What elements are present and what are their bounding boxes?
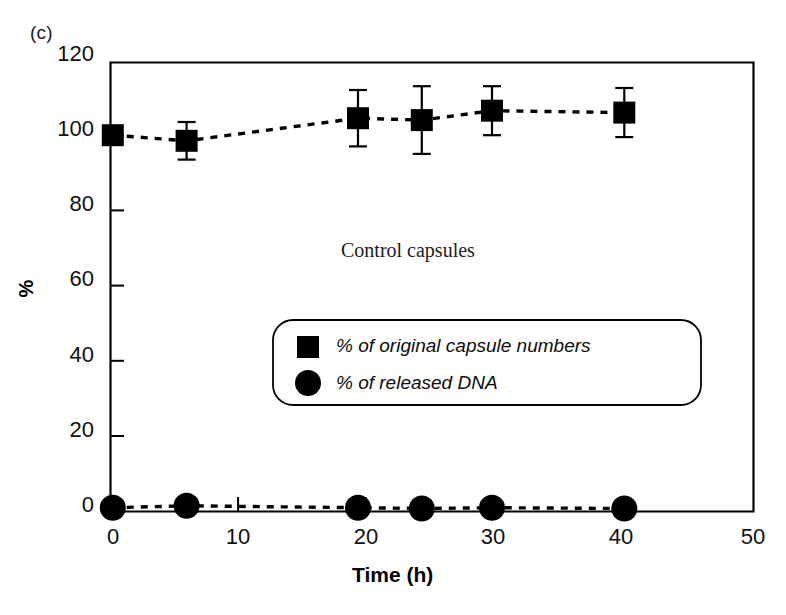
y-axis-ticks xyxy=(111,135,125,436)
legend-square-marker xyxy=(297,336,319,358)
legend-circle-marker xyxy=(295,370,321,396)
x-tick-label-20: 20 xyxy=(336,524,396,550)
y-tick-label-100: 100 xyxy=(38,116,94,142)
x-tick-label-0: 0 xyxy=(83,524,143,550)
y-tick-label-80: 80 xyxy=(38,191,94,217)
chart-canvas xyxy=(0,0,786,615)
x-tick-label-10: 10 xyxy=(208,524,268,550)
legend-label-released-dna: % of released DNA xyxy=(336,372,498,394)
y-tick-label-0: 0 xyxy=(38,492,94,518)
y-tick-label-60: 60 xyxy=(38,266,94,292)
x-tick-label-50: 50 xyxy=(723,524,783,550)
y-tick-label-20: 20 xyxy=(38,417,94,443)
x-tick-label-40: 40 xyxy=(591,524,651,550)
markers-released-dna xyxy=(100,493,638,522)
series-released-dna xyxy=(100,493,638,522)
series-capsule-numbers xyxy=(102,86,636,159)
x-axis-title: Time (h) xyxy=(352,563,433,587)
x-tick-label-30: 30 xyxy=(463,524,523,550)
plot-annotation: Control capsules xyxy=(341,239,475,262)
error-bars-capsule-numbers xyxy=(178,86,634,159)
markers-capsule-numbers xyxy=(102,100,636,152)
y-axis-title: % xyxy=(15,259,38,319)
y-tick-label-40: 40 xyxy=(38,342,94,368)
figure-panel-c: (c) xyxy=(0,0,786,615)
legend-label-capsule-numbers: % of original capsule numbers xyxy=(336,335,591,357)
y-tick-label-120: 120 xyxy=(38,41,94,67)
